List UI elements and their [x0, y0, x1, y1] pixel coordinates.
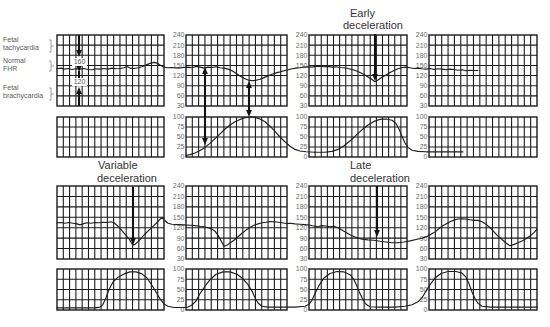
- uc-axis-tick-label: 75: [420, 276, 428, 283]
- arrowhead-icon: [76, 87, 82, 94]
- label-bracket: [49, 40, 54, 52]
- fhr-axis-tick-label: 60: [177, 92, 185, 99]
- fhr-axis-tick-label: 120: [416, 224, 428, 231]
- label-fetal-bradycardia: Fetal brachycardia: [3, 84, 43, 100]
- annotation-late-line1: Late: [350, 159, 371, 172]
- fhr-panel-row1-col3: 240210180150120906030: [296, 31, 407, 109]
- uc-axis-tick-label: 75: [300, 123, 308, 130]
- contraction-peak-arrow: [246, 81, 252, 117]
- cardiotocograph-strips: 2402101801501209060301007550250240210180…: [0, 0, 550, 327]
- uc-panel-row1-col1: [57, 117, 164, 157]
- fhr-axis-tick-label: 210: [416, 193, 428, 200]
- tachycardia-arrow: [76, 35, 82, 57]
- uc-axis-tick-label: 75: [177, 123, 185, 130]
- fhr-axis-tick-label: 240: [416, 182, 428, 189]
- fhr-panel-row2-col4: 240210180150120906030: [416, 182, 537, 262]
- arrowhead-icon: [246, 110, 252, 117]
- fhr-axis-tick-label: 210: [173, 193, 185, 200]
- fhr-axis-tick-label: 120: [296, 72, 308, 79]
- arrowhead-icon: [76, 50, 82, 57]
- uc-axis-tick-label: 0: [304, 153, 308, 160]
- fhr-trace-row2: [57, 217, 537, 246]
- uc-axis-tick-label: 100: [416, 113, 428, 120]
- fhr-axis-tick-label: 30: [177, 102, 185, 109]
- fhr-axis-tick-label: 60: [300, 245, 308, 252]
- fhr-axis-tick-label: 90: [300, 82, 308, 89]
- fhr-axis-tick-label: 30: [420, 102, 428, 109]
- fhr-axis-tick-label: 180: [296, 52, 308, 59]
- uc-axis-tick-label: 0: [304, 306, 308, 313]
- uc-axis-tick-label: 100: [173, 113, 185, 120]
- uc-axis-tick-label: 0: [424, 306, 428, 313]
- threshold-label-160: 160: [72, 58, 87, 66]
- fhr-axis-tick-label: 90: [177, 235, 185, 242]
- uc-panel-row2-col4: 1007550250: [416, 265, 537, 313]
- annotation-variable-line1: Variable: [98, 159, 138, 172]
- label-bracket: [49, 61, 54, 71]
- uc-axis-tick-label: 25: [177, 296, 185, 303]
- uc-panel-row2-col3: 1007550250: [296, 265, 407, 313]
- annotation-late-line2: deceleration: [350, 172, 410, 185]
- fhr-axis-tick-label: 240: [416, 31, 428, 38]
- fhr-panel-row2-col1: [57, 186, 164, 259]
- label-bracket: [49, 88, 54, 100]
- uc-axis-tick-label: 0: [424, 153, 428, 160]
- fhr-axis-tick-label: 210: [173, 42, 185, 49]
- uc-panel-row1-col4: 1007550250: [416, 113, 537, 160]
- uc-axis-tick-label: 100: [296, 265, 308, 272]
- label-fetal-tachycardia: Fetal tachycardia: [3, 36, 39, 52]
- fhr-axis-tick-label: 120: [173, 72, 185, 79]
- label-line: Fetal: [3, 84, 43, 92]
- arrowhead-icon: [374, 230, 380, 237]
- uc-axis-tick-label: 100: [416, 265, 428, 272]
- label-normal-fhr: Normal FHR: [3, 57, 26, 73]
- fhr-axis-tick-label: 150: [296, 214, 308, 221]
- fhr-axis-tick-label: 180: [296, 203, 308, 210]
- fhr-axis-tick-label: 30: [300, 102, 308, 109]
- uc-axis-tick-label: 75: [300, 276, 308, 283]
- uc-panel-row2-col1: [57, 269, 164, 310]
- fhr-axis-tick-label: 240: [296, 31, 308, 38]
- fhr-axis-tick-label: 180: [173, 203, 185, 210]
- uc-axis-tick-label: 25: [420, 143, 428, 150]
- fhr-axis-tick-label: 60: [177, 245, 185, 252]
- label-line: Fetal: [3, 36, 39, 44]
- fhr-axis-tick-label: 240: [296, 182, 308, 189]
- label-line: FHR: [3, 65, 26, 73]
- fhr-axis-tick-label: 60: [420, 245, 428, 252]
- fhr-axis-tick-label: 60: [300, 92, 308, 99]
- label-line: Normal: [3, 57, 26, 65]
- uc-axis-tick-label: 25: [300, 143, 308, 150]
- fhr-panel-row2-col2: 240210180150120906030: [173, 182, 287, 262]
- uc-axis-tick-label: 0: [181, 153, 185, 160]
- fhr-axis-tick-label: 30: [177, 255, 185, 262]
- arrowhead-icon: [202, 138, 208, 145]
- uc-axis-tick-label: 100: [173, 265, 185, 272]
- uc-axis-tick-label: 50: [177, 286, 185, 293]
- fhr-axis-tick-label: 240: [173, 182, 185, 189]
- fhr-axis-tick-label: 120: [416, 72, 428, 79]
- fhr-axis-tick-label: 90: [300, 235, 308, 242]
- fhr-axis-tick-label: 60: [420, 92, 428, 99]
- fhr-axis-tick-label: 150: [173, 214, 185, 221]
- early-deceleration-arrow: [372, 34, 378, 81]
- uc-axis-tick-label: 75: [177, 276, 185, 283]
- fhr-axis-tick-label: 240: [173, 31, 185, 38]
- uc-axis-tick-label: 50: [300, 133, 308, 140]
- variable-deceleration-arrow: [130, 187, 136, 245]
- threshold-label-120: 120: [72, 78, 87, 86]
- uc-panel-row1-col2: 1007550250: [173, 113, 287, 160]
- uc-axis-tick-label: 50: [420, 133, 428, 140]
- fhr-axis-tick-label: 180: [173, 52, 185, 59]
- fhr-axis-tick-label: 210: [416, 42, 428, 49]
- fhr-axis-tick-label: 210: [296, 42, 308, 49]
- annotation-early-line2: deceleration: [343, 19, 403, 32]
- fhr-axis-tick-label: 180: [416, 52, 428, 59]
- arrowhead-icon: [246, 81, 252, 88]
- bradycardia-arrow: [76, 87, 82, 106]
- uc-axis-tick-label: 75: [420, 123, 428, 130]
- uc-axis-tick-label: 25: [177, 143, 185, 150]
- fhr-axis-tick-label: 210: [296, 193, 308, 200]
- fhr-axis-tick-label: 30: [300, 255, 308, 262]
- fhr-axis-tick-label: 90: [177, 82, 185, 89]
